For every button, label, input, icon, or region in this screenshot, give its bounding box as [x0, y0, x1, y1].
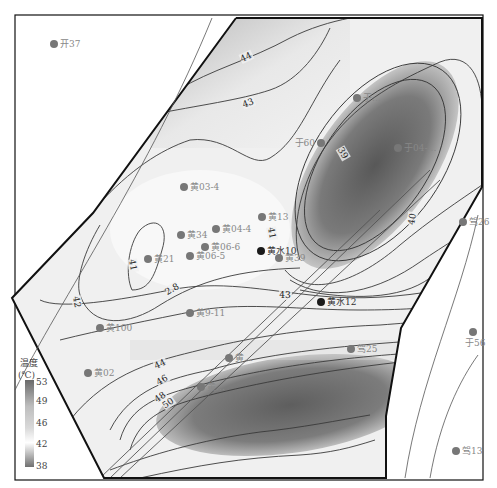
well-dot-icon — [144, 255, 152, 263]
well-label: 驾26 — [469, 217, 490, 227]
well-dot-icon — [317, 298, 325, 306]
well-label: 于56 — [465, 338, 486, 348]
legend-unit: (℃) — [18, 370, 35, 380]
legend-tick: 42 — [36, 439, 47, 449]
well-label: 黄水12 — [327, 296, 356, 307]
well-label: 驾25 — [357, 344, 378, 354]
contour-label: 42 — [71, 295, 83, 308]
well-label: 于04-… — [404, 143, 437, 153]
contour-label: 43 — [279, 290, 291, 300]
well-label: 黄9-11 — [196, 307, 225, 318]
well-label: 黄06-5 — [196, 250, 225, 261]
well-dot-icon — [186, 309, 194, 317]
well-label: 黄… — [207, 381, 225, 392]
well-dot-icon — [180, 183, 188, 191]
legend-title: 温度 — [20, 357, 38, 368]
well-dot-icon — [275, 254, 283, 262]
well-label: 黄39 — [285, 252, 306, 263]
well-dot-icon — [177, 231, 185, 239]
well-label: 于60 — [295, 138, 316, 148]
contour-label: 40 — [406, 212, 418, 225]
well-label: 黄03-4 — [190, 181, 219, 192]
legend-tick: 38 — [36, 461, 48, 471]
well-dot-icon — [317, 139, 325, 147]
well-dot-icon — [201, 243, 209, 251]
legend-tick: 53 — [36, 377, 48, 387]
well-dot-icon — [459, 218, 467, 226]
well-marker[interactable]: 驾25 — [347, 344, 378, 354]
well-dot-icon — [452, 447, 460, 455]
temperature-contour-map: 4443394041412.8424344464850 开37于…于60于04-… — [0, 0, 497, 488]
well-dot-icon — [50, 40, 58, 48]
well-marker[interactable]: 于… — [353, 93, 381, 103]
well-marker[interactable]: 于60 — [295, 138, 325, 148]
well-label: 黄34 — [187, 229, 208, 240]
well-marker[interactable]: 驾26 — [459, 217, 490, 227]
well-dot-icon — [84, 369, 92, 377]
well-label: 黄… — [235, 352, 253, 363]
well-label: 驾13 — [462, 446, 483, 456]
well-dot-icon — [225, 354, 233, 362]
well-dot-icon — [197, 383, 205, 391]
well-dot-icon — [212, 225, 220, 233]
well-dot-icon — [186, 252, 194, 260]
legend-colorbar — [25, 380, 34, 467]
well-dot-icon — [258, 213, 266, 221]
well-dot-icon — [353, 94, 361, 102]
contour-label: 41 — [127, 258, 139, 271]
well-dot-icon — [469, 328, 477, 336]
legend-tick: 49 — [36, 396, 48, 406]
well-marker[interactable]: 驾13 — [452, 446, 483, 456]
well-label: 黄02 — [94, 367, 114, 378]
well-label: 黄100 — [106, 322, 132, 333]
well-dot-icon — [394, 144, 402, 152]
contour-label: 41 — [266, 226, 278, 239]
well-label: 黄21 — [154, 253, 174, 264]
well-marker[interactable]: 开37 — [50, 39, 81, 49]
legend-tick: 46 — [36, 418, 48, 428]
well-label: 黄13 — [268, 211, 289, 222]
well-label: 黄04-4 — [222, 223, 251, 234]
well-dot-icon — [347, 345, 355, 353]
well-label: 开37 — [60, 39, 81, 49]
well-dot-icon — [257, 247, 265, 255]
well-dot-icon — [96, 324, 104, 332]
well-label: 于… — [363, 93, 381, 103]
